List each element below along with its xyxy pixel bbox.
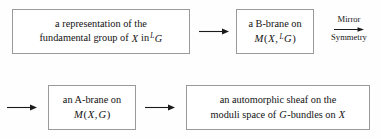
box-a-brane: an A-brane on M(X,G) (48, 85, 136, 130)
diagram-canvas: a representation of the fundamental grou… (0, 0, 381, 139)
box-a-brane-line1: an A-brane on (63, 93, 121, 108)
math-comma: , (275, 33, 278, 44)
math-superscript-l: L (279, 33, 284, 41)
box-b-brane-formula: M(X,LG) (254, 31, 296, 46)
math-paren-close: ) (107, 109, 111, 120)
arrow-rep-to-bbrane-icon (199, 26, 229, 37)
math-g: G (98, 109, 107, 120)
box-b-brane-line1: a B-brane on (248, 17, 301, 32)
box-automorphic-sheaf: an automorphic sheaf on the moduli space… (186, 85, 370, 130)
text-fundamental-group: fundamental group of (39, 33, 128, 44)
math-m: M (254, 33, 264, 44)
math-x: X (87, 109, 95, 120)
box-representation: a representation of the fundamental grou… (12, 9, 190, 54)
math-x: X (338, 109, 345, 120)
arrow-lead-to-abrane-icon (7, 102, 37, 113)
mirror-symmetry-label: Mirror Symmetry (320, 14, 378, 42)
math-m: M (74, 109, 84, 120)
text-bundles-on: -bundles on (287, 109, 335, 120)
box-b-brane: a B-brane on M(X,LG) (236, 9, 314, 54)
text-moduli-space: moduli space of (210, 109, 276, 120)
box-automorphic-sheaf-line2: moduli space of G-bundles on X (210, 108, 345, 123)
box-representation-line2: fundamental group of X inLG (39, 31, 162, 46)
box-a-brane-formula: M(X,G) (74, 107, 111, 122)
math-paren-close: ) (292, 33, 296, 44)
math-var-x: X (131, 33, 138, 44)
math-var-g: G (154, 33, 162, 44)
box-representation-line1: a representation of the (55, 17, 147, 32)
math-g: G (284, 33, 293, 44)
text-in: in (141, 33, 149, 44)
mirror-symmetry-word-top: Mirror (320, 14, 378, 24)
arrow-abrane-to-sheaf-icon (145, 102, 175, 113)
mirror-symmetry-word-bottom: Symmetry (320, 32, 378, 42)
mirror-symmetry-arrow-icon (334, 25, 364, 32)
box-automorphic-sheaf-line1: an automorphic sheaf on the (220, 93, 337, 108)
